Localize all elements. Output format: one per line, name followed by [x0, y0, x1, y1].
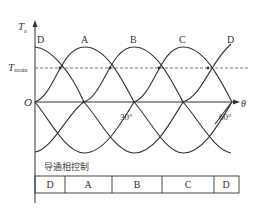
intersection-dots — [59, 67, 210, 104]
phase-label-a: A — [81, 34, 89, 45]
curve-d-upper — [35, 47, 84, 102]
control-table: D A B C D — [35, 176, 239, 193]
phase-label-d2: D — [227, 34, 234, 45]
curve-a-upper — [35, 47, 134, 102]
control-cell-b: B — [134, 179, 141, 190]
phase-label-c: C — [179, 34, 186, 45]
control-cell-d2: D — [222, 179, 229, 190]
curve-lower-1 — [35, 102, 134, 153]
phase-label-d: D — [37, 34, 44, 45]
curve-lower-0 — [35, 102, 84, 152]
control-title: 导通相控制 — [44, 161, 89, 172]
torque-curves — [35, 44, 232, 153]
origin-label: O — [24, 96, 32, 108]
tick-60: 60° — [219, 112, 232, 122]
control-cell-d: D — [46, 179, 53, 190]
x-axis-arrow-icon — [233, 100, 240, 105]
phase-label-b: B — [130, 34, 137, 45]
y-axis-arrow-icon — [33, 20, 38, 27]
x-axis-label: θ — [241, 98, 246, 109]
t-strain-label: Tstrain — [8, 61, 27, 73]
y-axis-label: Te — [18, 20, 27, 34]
tick-30: 30° — [120, 112, 133, 122]
curve-d2-upper — [183, 44, 231, 102]
curve-c-upper — [134, 47, 232, 102]
control-cell-c: C — [185, 179, 192, 190]
torque-diagram: Te Tstrain O θ D A B C D 30° 60° 导通相控制 D… — [0, 0, 255, 212]
control-cell-a: A — [84, 179, 92, 190]
curve-lower-4 — [183, 102, 231, 153]
